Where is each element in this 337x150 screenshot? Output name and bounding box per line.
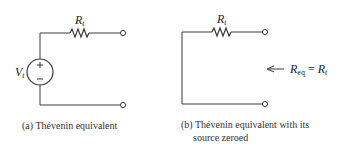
req-sub: eq xyxy=(297,68,305,77)
resistor-rt-icon xyxy=(212,28,231,36)
resistor-rt-icon xyxy=(70,29,89,37)
resistor-label-sub: t xyxy=(82,19,84,28)
caption-b-line2: source zeroed xyxy=(193,131,248,144)
resistor-label-a: Rt xyxy=(75,14,85,28)
terminal-top-icon xyxy=(262,29,267,34)
req-rhs-main: R xyxy=(318,62,325,76)
caption-a: (a) Thévenin equivalent xyxy=(22,119,117,132)
thevenin-zeroed-circuit xyxy=(182,28,284,107)
source-label-a: Vt xyxy=(15,66,25,80)
terminal-bottom-icon xyxy=(120,102,125,107)
resistor-label-sub: t xyxy=(224,18,226,27)
resistor-label-b: Rt xyxy=(217,13,227,27)
req-rhs-sub: t xyxy=(325,68,327,77)
source-label-sub: t xyxy=(22,71,24,80)
req-equation: Req = Rt xyxy=(290,63,327,77)
terminal-top-icon xyxy=(120,30,125,35)
thevenin-equivalent-circuit xyxy=(27,29,126,108)
req-equals: = xyxy=(305,62,318,76)
terminal-bottom-icon xyxy=(262,101,267,106)
caption-b-line1: (b) Thévenin equivalent with its xyxy=(181,118,309,131)
